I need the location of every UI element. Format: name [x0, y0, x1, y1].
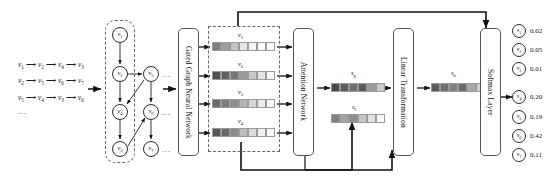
embedding-vector-v2 [212, 71, 275, 80]
graph-node-label: v7 [148, 144, 153, 153]
vector-cell [358, 83, 367, 92]
input-sequences: v1 ⟶ v2 ⟶ v4 ⟶ v3 v2 ⟶ v5 ⟶ v6 ⟶ v7 v5 ⟶… [18, 60, 84, 116]
session-vector-sl [331, 114, 385, 123]
vector-cell [440, 83, 449, 92]
embedding-vector-v4 [212, 128, 275, 137]
softmax-layer-label: Softmax Layer [486, 69, 495, 116]
output-value-v4: 0.20 [530, 93, 542, 101]
session-vector-sg [331, 83, 385, 92]
vector-cell [248, 99, 257, 108]
embedding-label-v1: v1 [238, 31, 243, 40]
vector-cell [239, 99, 248, 108]
sequence-row: v5 ⟶ v4 ⟶ v3 ⟶ v6 [18, 93, 84, 103]
vector-cell [230, 42, 239, 51]
vector-cell [367, 83, 376, 92]
sequence-ellipsis: ... [18, 107, 84, 116]
vector-cell [248, 42, 257, 51]
vector-cell [331, 83, 340, 92]
vector-cell [266, 99, 275, 108]
output-node-v7[interactable]: v7 [512, 148, 526, 162]
output-node-label: v6 [517, 132, 522, 140]
linear-transformation-block[interactable]: Linear Transformation [393, 28, 414, 156]
vector-cell [349, 114, 358, 123]
vector-cell [458, 83, 467, 92]
ggnn-block[interactable]: Gated Graph Neural Network [178, 28, 199, 156]
embedding-label-v4: v4 [238, 117, 243, 126]
graph-node-v6[interactable]: v6 [143, 104, 159, 120]
vector-cell [257, 42, 266, 51]
vector-cell [230, 99, 239, 108]
graph-row-ellipsis: ... [162, 70, 171, 79]
vector-cell [212, 128, 221, 137]
vector-cell [230, 71, 239, 80]
sequence-row: v2 ⟶ v5 ⟶ v6 ⟶ v7 [18, 76, 84, 86]
graph-node-v5[interactable]: v5 [143, 66, 159, 82]
embedding-vector-v3 [212, 99, 275, 108]
vector-cell [221, 42, 230, 51]
output-node-v4[interactable]: v4 [512, 90, 526, 104]
sl-label: sl [352, 103, 356, 112]
vector-cell [431, 83, 440, 92]
attention-network-label: Attention Network [299, 62, 308, 121]
attention-network-block[interactable]: Attention Network [293, 28, 314, 156]
vector-cell [367, 114, 376, 123]
graph-node-label: v2 [117, 69, 122, 78]
graph-node-label: v4 [117, 107, 122, 116]
output-node-label: v4 [517, 93, 522, 101]
vector-cell [266, 128, 275, 137]
vector-cell [467, 83, 476, 92]
vector-cell [212, 71, 221, 80]
graph-node-label: v3 [117, 144, 122, 153]
output-value-v7: 0.11 [530, 151, 542, 159]
output-value-v3: 0.01 [530, 65, 542, 73]
output-node-v5[interactable]: v5 [512, 110, 526, 124]
embedding-vector-v1 [212, 42, 275, 51]
output-node-label: v5 [517, 113, 522, 121]
graph-node-label: v5 [148, 69, 153, 78]
output-value-v1: 0.02 [530, 27, 542, 35]
output-value-v5: 0.19 [530, 113, 542, 121]
vector-cell [331, 114, 340, 123]
sequence-row: v1 ⟶ v2 ⟶ v4 ⟶ v3 [18, 60, 84, 70]
vector-cell [221, 128, 230, 137]
vector-cell [376, 114, 385, 123]
vector-cell [221, 71, 230, 80]
ggnn-label: Gated Graph Neural Network [184, 46, 193, 139]
graph-node-v1[interactable]: v1 [112, 27, 128, 43]
vector-cell [248, 128, 257, 137]
vector-cell [449, 83, 458, 92]
output-node-v1[interactable]: v1 [512, 24, 526, 38]
output-value-v2: 0.05 [530, 46, 542, 54]
output-node-label: v3 [517, 65, 522, 73]
vector-cell [248, 71, 257, 80]
graph-node-v7[interactable]: v7 [143, 141, 159, 157]
output-node-label: v1 [517, 27, 522, 35]
vector-cell [376, 83, 385, 92]
output-node-v6[interactable]: v6 [512, 129, 526, 143]
output-value-v6: 0.42 [530, 132, 542, 140]
vector-cell [266, 71, 275, 80]
vector-cell [230, 128, 239, 137]
output-node-v3[interactable]: v3 [512, 62, 526, 76]
graph-row-ellipsis: ... [162, 108, 171, 117]
vector-cell [266, 42, 275, 51]
graph-node-v2[interactable]: v2 [112, 66, 128, 82]
vector-cell [349, 83, 358, 92]
softmax-layer-block[interactable]: Softmax Layer [480, 28, 501, 156]
diagram-canvas: v1 ⟶ v2 ⟶ v4 ⟶ v3 v2 ⟶ v5 ⟶ v6 ⟶ v7 v5 ⟶… [0, 0, 556, 183]
vector-cell [239, 71, 248, 80]
output-node-v2[interactable]: v2 [512, 43, 526, 57]
embedding-label-v2: v2 [238, 60, 243, 69]
graph-node-v3[interactable]: v3 [112, 141, 128, 157]
sh-label: sh [451, 69, 456, 78]
vector-cell [212, 42, 221, 51]
vector-cell [257, 71, 266, 80]
graph-node-v4[interactable]: v4 [112, 104, 128, 120]
sg-label: sg [351, 69, 356, 78]
vector-cell [221, 99, 230, 108]
vector-cell [340, 114, 349, 123]
graph-row-ellipsis: ... [162, 145, 171, 154]
vector-cell [340, 83, 349, 92]
embedding-label-v3: v3 [238, 88, 243, 97]
linear-transformation-label: Linear Transformation [399, 57, 408, 128]
